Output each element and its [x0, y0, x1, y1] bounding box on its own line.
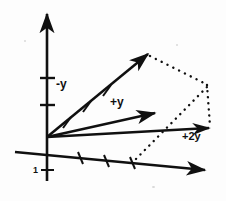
lower-dotted-diagonal [136, 87, 207, 159]
descending-vector-line [15, 152, 205, 170]
scan-speck [24, 40, 26, 42]
vector-diagram-figure: -y +y +2y 1 [0, 0, 226, 201]
right-dotted-edge [207, 85, 210, 126]
upper-dotted-edge [150, 56, 206, 84]
plus-2y-label: +2y [182, 131, 201, 142]
scan-speck [152, 186, 155, 188]
tick-one-label: 1 [33, 166, 38, 175]
plus-y-label: +y [110, 96, 124, 108]
construction-lines [136, 56, 210, 159]
scan-speck [176, 44, 178, 46]
descending-vector [15, 152, 205, 170]
minus-y-label: -y [56, 78, 67, 90]
